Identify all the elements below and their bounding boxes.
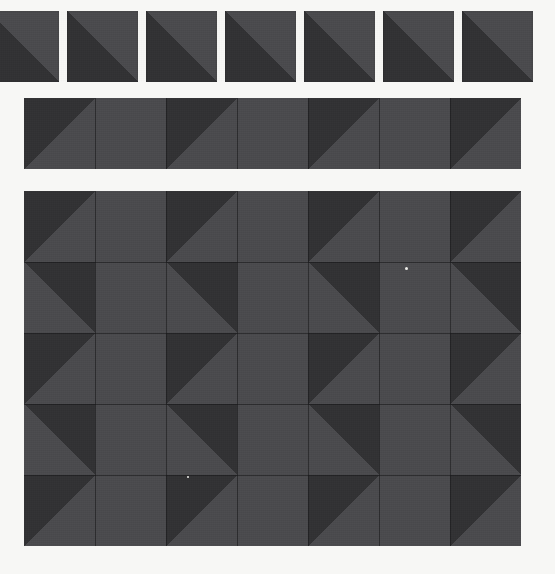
pattern-tile [95, 475, 166, 546]
tile-band-grid-large [24, 191, 521, 546]
pattern-tile [237, 191, 308, 262]
pattern-tile [95, 191, 166, 262]
pattern-tile [308, 475, 379, 546]
pattern-tile [67, 11, 138, 82]
pattern-tile [166, 262, 237, 333]
pattern-tile [308, 404, 379, 475]
pattern-tile [450, 98, 521, 169]
pattern-tile [308, 262, 379, 333]
pattern-tile [237, 262, 308, 333]
pattern-tile [450, 333, 521, 404]
pattern-tile [95, 404, 166, 475]
pattern-tile [450, 191, 521, 262]
pattern-tile [225, 11, 296, 82]
pattern-tile [308, 191, 379, 262]
pattern-tile [146, 11, 217, 82]
pattern-tile [166, 404, 237, 475]
pattern-tile [237, 404, 308, 475]
pattern-tile [450, 404, 521, 475]
pattern-tile [237, 333, 308, 404]
pattern-tile [304, 11, 375, 82]
pattern-canvas [0, 0, 555, 574]
pattern-tile [166, 98, 237, 169]
pattern-tile [95, 333, 166, 404]
pattern-tile [24, 262, 95, 333]
pattern-tile [308, 98, 379, 169]
pattern-tile [379, 262, 450, 333]
pattern-tile [462, 11, 533, 82]
pattern-tile [166, 191, 237, 262]
pattern-tile [237, 475, 308, 546]
pattern-tile [450, 475, 521, 546]
pattern-tile [95, 98, 166, 169]
pattern-tile [24, 333, 95, 404]
pattern-tile [24, 191, 95, 262]
pattern-tile [237, 98, 308, 169]
pattern-tile [24, 98, 95, 169]
tile-band-row-contiguous-band [24, 98, 521, 169]
pattern-tile [450, 262, 521, 333]
pattern-tile [379, 98, 450, 169]
pattern-tile [95, 262, 166, 333]
pattern-tile [166, 333, 237, 404]
pattern-tile [0, 11, 59, 82]
pattern-tile [383, 11, 454, 82]
pattern-tile [24, 475, 95, 546]
pattern-tile [379, 191, 450, 262]
pattern-tile [379, 333, 450, 404]
pattern-tile [308, 333, 379, 404]
pattern-tile [379, 404, 450, 475]
pattern-tile [166, 475, 237, 546]
tile-band-row-separated-tiles [0, 11, 533, 82]
pattern-tile [24, 404, 95, 475]
pattern-tile [379, 475, 450, 546]
